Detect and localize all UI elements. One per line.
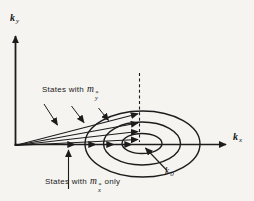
diagram-svg: [0, 0, 254, 201]
label-states-mx-suffix: only: [105, 177, 121, 186]
energy-ellipse-inner: [122, 134, 162, 154]
k0-subscript: 0: [170, 170, 174, 178]
ky-axis-label: ky: [10, 12, 19, 25]
label-states-my-text: States with: [42, 85, 84, 94]
k0-symbol: k: [165, 166, 169, 176]
kx-subscript: x: [239, 136, 242, 144]
label-states-my: States withm*y: [42, 84, 99, 100]
fan-arrow-3: [15, 132, 138, 146]
states-my-pointer-arrow-1: [44, 104, 58, 125]
label-states-mx: States withm*xonly: [45, 176, 120, 192]
label-states-my-symbol: m: [87, 84, 94, 94]
kx-symbol: k: [233, 131, 238, 142]
states-my-pointer-arrow-3: [99, 108, 109, 121]
kx-axis-label: kx: [233, 131, 242, 144]
label-states-mx-sub: x: [98, 188, 101, 193]
k0-pointer-arrow: [146, 148, 168, 171]
energy-ellipse-middle: [104, 122, 181, 165]
k0-label: k0: [165, 166, 174, 178]
label-states-mx-text: States with: [45, 177, 87, 186]
label-states-mx-supsub: *x: [98, 183, 102, 192]
label-states-mx-symbol: m: [90, 176, 97, 186]
label-states-my-supsub: *y: [95, 91, 99, 100]
ky-subscript: y: [16, 17, 19, 25]
label-states-my-sub: y: [95, 96, 98, 101]
ky-symbol: k: [10, 12, 15, 23]
states-my-pointer-arrow-2: [72, 106, 85, 123]
scanned-figure-page: { "figure": { "description": "k-space di…: [0, 0, 254, 201]
figure-canvas: ky kx States withm*y States withm*xonly …: [0, 0, 254, 201]
